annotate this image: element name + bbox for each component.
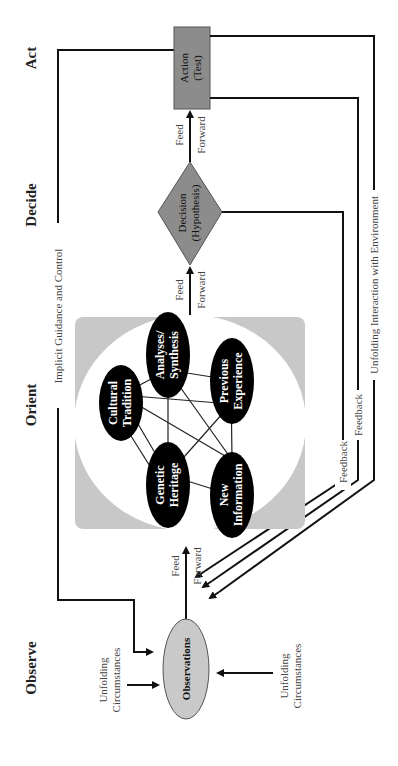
previous-label-1: Previous <box>217 358 231 403</box>
action-label-1: Action <box>178 53 190 83</box>
genetic-label-2: Heritage <box>167 462 181 507</box>
analyses-label-2: Synthesis <box>167 331 181 379</box>
feed-label-2: Feed <box>173 279 185 301</box>
ooda-diagram: Act Decide Orient Observe Implicit Guida… <box>0 0 398 766</box>
forward-label-3: Forward <box>195 116 207 154</box>
decision-label-1: Decision <box>176 193 188 233</box>
decision-label-2: (Hypothesis) <box>189 184 202 241</box>
unfolding-right-1: Unfolding <box>278 653 290 699</box>
feed-label-1: Feed <box>169 555 181 577</box>
phase-act: Act <box>23 47 39 70</box>
cultural-label-1: Cultural <box>106 380 120 425</box>
action-label-2: (Test) <box>191 55 204 81</box>
genetic-label-1: Genetic <box>153 465 167 505</box>
newinfo-label-1: New <box>217 483 231 506</box>
circumstances-left: Circumstances <box>110 648 122 713</box>
observations-label: Observations <box>180 637 192 700</box>
implicit-guidance-label: Implicit Guidance and Control <box>52 249 64 384</box>
cultural-label-2: Tradition <box>120 378 134 427</box>
circumstances-right: Circumstances <box>291 644 303 709</box>
forward-label-1: Forward <box>191 547 203 585</box>
previous-label-2: Experience <box>231 352 245 410</box>
feedback-label-1: Feedback <box>352 393 364 436</box>
newinfo-label-2: Information <box>231 463 245 526</box>
analyses-label-1: Analyses/ <box>153 330 167 379</box>
phase-orient: Orient <box>23 384 39 427</box>
unfolding-left-1: Unfolding <box>97 657 109 703</box>
feedback-label-2: Feedback <box>337 440 349 483</box>
unfolding-interaction-label: Unfolding Interaction with Environment <box>368 196 380 374</box>
phase-decide: Decide <box>23 183 39 227</box>
feed-label-3: Feed <box>173 124 185 146</box>
phase-observe: Observe <box>23 641 39 695</box>
forward-label-2: Forward <box>195 271 207 309</box>
